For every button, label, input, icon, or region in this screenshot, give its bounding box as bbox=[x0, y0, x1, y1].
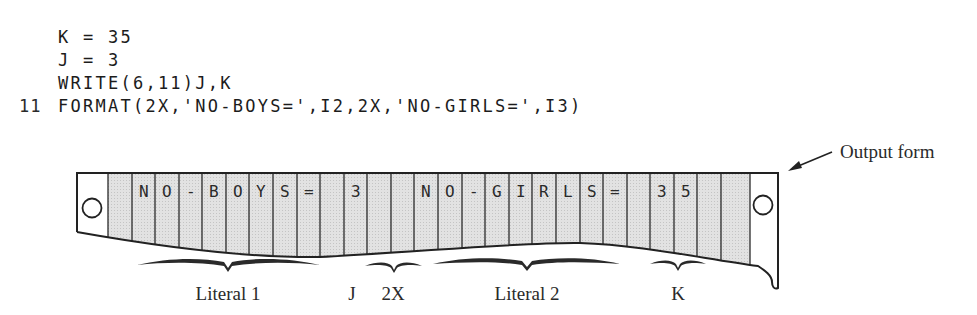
form-cell: 3 bbox=[344, 183, 368, 201]
form-cell: N bbox=[132, 183, 156, 201]
brace-2x-icon bbox=[365, 263, 422, 273]
form-cell: 5 bbox=[674, 183, 698, 201]
brace-literal-1-icon bbox=[137, 259, 320, 272]
annotation-literal-1: Literal 1 bbox=[196, 284, 261, 304]
form-cell: G bbox=[485, 183, 509, 201]
annotation-2x: 2X bbox=[381, 284, 404, 304]
form-cell: O bbox=[438, 183, 462, 201]
brace-k-icon bbox=[650, 261, 706, 271]
form-cell: - bbox=[179, 183, 203, 201]
form-cell: = bbox=[603, 183, 627, 201]
form-cell: - bbox=[462, 183, 486, 201]
annotation-j: J bbox=[348, 284, 355, 304]
left-sprocket-hole-icon bbox=[83, 199, 102, 218]
output-form-label: Output form bbox=[840, 142, 934, 162]
form-cell: O bbox=[226, 183, 250, 201]
form-cell: Y bbox=[249, 183, 273, 201]
output-form-diagram bbox=[0, 0, 977, 315]
form-cell: S bbox=[273, 183, 297, 201]
callout-arrow-icon bbox=[788, 152, 832, 171]
form-cell: B bbox=[202, 183, 226, 201]
form-cell: O bbox=[155, 183, 179, 201]
form-cell: N bbox=[414, 183, 438, 201]
form-cell: I bbox=[509, 183, 533, 201]
form-cell: R bbox=[532, 183, 556, 201]
form-cell: S bbox=[580, 183, 604, 201]
form-cell: L bbox=[556, 183, 580, 201]
form-cell: = bbox=[297, 183, 321, 201]
annotation-k: K bbox=[671, 284, 685, 304]
right-sprocket-hole-icon bbox=[754, 196, 773, 215]
annotation-literal-2: Literal 2 bbox=[495, 284, 560, 304]
brace-literal-2-icon bbox=[433, 258, 620, 271]
form-cell: 3 bbox=[650, 183, 674, 201]
braces bbox=[137, 258, 706, 273]
